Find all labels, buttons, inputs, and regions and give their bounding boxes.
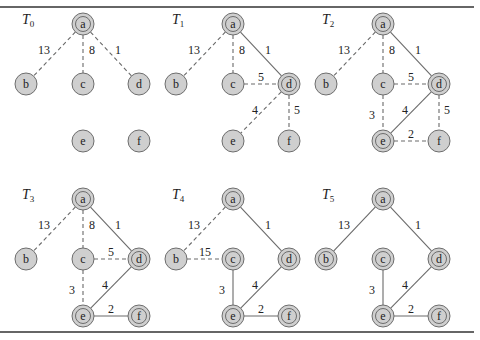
node-c: c	[72, 73, 94, 95]
edge-weight-label: 1	[265, 218, 271, 232]
node-a: a	[222, 13, 244, 35]
panel-title: T0	[22, 12, 35, 29]
svg-text:f: f	[287, 309, 291, 323]
node-c: c	[222, 248, 244, 270]
node-c: c	[222, 73, 244, 95]
edge-a-d	[391, 207, 432, 251]
edge-weight-label: 1	[265, 43, 271, 57]
svg-text:e: e	[380, 309, 385, 323]
edge-weight-label: 4	[102, 278, 108, 292]
svg-text:f: f	[287, 134, 291, 148]
panel-T3: T313815432abcdef	[15, 187, 150, 327]
edge-weight-label: 5	[444, 103, 450, 117]
node-e: e	[372, 305, 394, 327]
edge-weight-label: 1	[115, 43, 121, 57]
svg-text:a: a	[80, 17, 86, 31]
panel-T4: T413151432abcdef	[165, 187, 300, 327]
edge-weight-label: 15	[199, 245, 211, 259]
edge-weight-label: 2	[258, 302, 264, 316]
node-d: d	[128, 248, 150, 270]
edge-weight-label: 3	[369, 283, 375, 297]
edge-a-d	[91, 32, 132, 76]
node-b: b	[165, 73, 187, 95]
svg-text:c: c	[230, 252, 235, 266]
node-b: b	[165, 248, 187, 270]
svg-text:d: d	[436, 252, 442, 266]
edge-weight-label: 1	[115, 218, 121, 232]
edge-weight-label: 8	[89, 43, 95, 57]
node-d: d	[278, 73, 300, 95]
node-e: e	[222, 130, 244, 152]
edge-weight-label: 4	[252, 278, 258, 292]
svg-text:d: d	[136, 77, 142, 91]
edge-weight-label: 13	[338, 218, 350, 232]
node-f: f	[128, 305, 150, 327]
svg-text:e: e	[80, 134, 85, 148]
node-b: b	[315, 73, 337, 95]
svg-text:a: a	[380, 17, 386, 31]
svg-text:c: c	[80, 77, 85, 91]
svg-text:e: e	[80, 309, 85, 323]
svg-text:e: e	[230, 134, 235, 148]
svg-text:d: d	[136, 252, 142, 266]
svg-text:a: a	[230, 192, 236, 206]
node-a: a	[372, 188, 394, 210]
svg-text:a: a	[380, 192, 386, 206]
node-b: b	[315, 248, 337, 270]
node-e: e	[372, 130, 394, 152]
svg-text:e: e	[230, 309, 235, 323]
node-f: f	[278, 130, 300, 152]
edge-weight-label: 4	[402, 103, 408, 117]
svg-text:c: c	[230, 77, 235, 91]
edge-weight-label: 2	[108, 302, 114, 316]
svg-text:e: e	[380, 134, 385, 148]
node-e: e	[72, 305, 94, 327]
node-f: f	[128, 130, 150, 152]
node-f: f	[428, 130, 450, 152]
edge-weight-label: 13	[338, 43, 350, 57]
svg-text:d: d	[436, 77, 442, 91]
node-b: b	[15, 248, 37, 270]
edge-weight-label: 4	[402, 278, 408, 292]
node-d: d	[128, 73, 150, 95]
edge-weight-label: 5	[408, 70, 414, 84]
svg-text:b: b	[23, 252, 29, 266]
svg-text:f: f	[137, 309, 141, 323]
node-a: a	[72, 188, 94, 210]
edge-weight-label: 3	[69, 283, 75, 297]
node-e: e	[222, 305, 244, 327]
edge-weight-label: 5	[258, 70, 264, 84]
svg-text:b: b	[23, 77, 29, 91]
panel-title: T2	[322, 12, 334, 29]
edge-weight-label: 5	[294, 103, 300, 117]
node-e: e	[72, 130, 94, 152]
svg-text:b: b	[173, 252, 179, 266]
edge-weight-label: 8	[89, 218, 95, 232]
panel-T5: T5131432abcdef	[315, 187, 450, 327]
svg-text:c: c	[80, 252, 85, 266]
node-f: f	[278, 305, 300, 327]
svg-text:d: d	[286, 77, 292, 91]
svg-text:b: b	[173, 77, 179, 91]
edge-weight-label: 8	[239, 43, 245, 57]
node-f: f	[428, 305, 450, 327]
panel-title: T1	[172, 12, 184, 29]
svg-text:b: b	[323, 77, 329, 91]
edge-d-e	[241, 92, 282, 133]
node-a: a	[222, 188, 244, 210]
svg-text:d: d	[286, 252, 292, 266]
panel-title: T5	[322, 187, 335, 204]
panel-T1: T11381545abcdef	[165, 12, 300, 152]
edge-weight-label: 13	[188, 43, 200, 57]
prim-mst-figure: T01381abcdefT11381545abcdefT2138154532ab…	[0, 0, 480, 340]
panel-title: T3	[22, 187, 35, 204]
panel-T2: T2138154532abcdef	[315, 12, 450, 152]
edge-weight-label: 3	[369, 108, 375, 122]
edge-weight-label: 13	[38, 43, 50, 57]
svg-text:b: b	[323, 252, 329, 266]
edge-weight-label: 8	[389, 43, 395, 57]
svg-text:a: a	[230, 17, 236, 31]
svg-text:f: f	[437, 134, 441, 148]
svg-text:c: c	[380, 77, 385, 91]
edge-a-d	[241, 207, 282, 251]
